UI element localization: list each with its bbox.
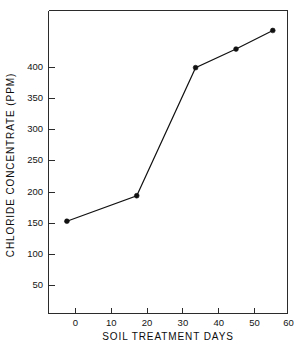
y-tick-label-100: 100 xyxy=(27,248,43,259)
y-tick-label-350: 350 xyxy=(27,92,43,103)
x-tick-label-20: 20 xyxy=(142,317,153,328)
x-axis-title: SOIL TREATMENT DAYS xyxy=(102,331,234,342)
y-axis-title: CHLORIDE CONCENTRATE (PPM) xyxy=(5,73,16,257)
y-tick-group-400: 400 xyxy=(27,61,54,72)
y-tick-group-300: 300 xyxy=(27,123,54,134)
y-tick-label-50: 50 xyxy=(32,279,43,290)
line-chart: 400 350 300 250 200 150 xyxy=(0,0,300,352)
data-point xyxy=(270,28,275,33)
y-tick-group-350: 350 xyxy=(27,92,54,103)
data-point xyxy=(64,219,69,224)
chart-figure: 400 350 300 250 200 150 xyxy=(0,0,300,352)
series-markers-chloride xyxy=(64,28,275,224)
x-tick-group-50: 50 xyxy=(249,308,260,329)
x-tick-label-10: 10 xyxy=(106,317,117,328)
y-tick-group-50: 50 xyxy=(32,279,54,290)
plot-frame xyxy=(49,11,288,314)
x-tick-group-20: 20 xyxy=(142,308,153,329)
x-tick-group-30: 30 xyxy=(178,308,189,329)
y-tick-label-150: 150 xyxy=(27,217,43,228)
series-line-chloride xyxy=(67,30,273,221)
data-point xyxy=(134,193,139,198)
y-tick-group-150: 150 xyxy=(27,217,54,228)
y-tick-label-250: 250 xyxy=(27,154,43,165)
data-point xyxy=(193,65,198,70)
data-series-chloride xyxy=(64,28,275,224)
y-tick-label-200: 200 xyxy=(27,186,43,197)
y-tick-group-200: 200 xyxy=(27,186,54,197)
x-tick-group-10: 10 xyxy=(106,308,117,329)
x-tick-label-30: 30 xyxy=(178,317,189,328)
x-tick-group-0: 0 xyxy=(73,308,78,329)
x-tick-label-0: 0 xyxy=(73,317,78,328)
y-tick-label-400: 400 xyxy=(27,61,43,72)
y-tick-label-300: 300 xyxy=(27,123,43,134)
x-axis: 0 10 20 30 40 50 xyxy=(73,308,294,329)
x-tick-label-40: 40 xyxy=(213,317,224,328)
y-tick-group-250: 250 xyxy=(27,154,54,165)
x-tick-group-40: 40 xyxy=(213,308,224,329)
data-point xyxy=(234,47,239,52)
x-tick-label-50: 50 xyxy=(249,317,260,328)
y-tick-group-100: 100 xyxy=(27,248,54,259)
x-tick-group-60: 60 xyxy=(283,308,294,329)
x-tick-label-60: 60 xyxy=(283,317,294,328)
y-axis: 400 350 300 250 200 150 xyxy=(27,61,54,290)
